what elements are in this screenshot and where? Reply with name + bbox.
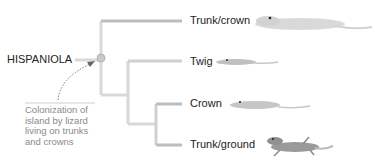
tip-label: Twig <box>190 55 213 67</box>
lizard-trunk-ground-icon <box>267 137 333 156</box>
tip-label: Trunk/crown <box>190 14 250 26</box>
lizard-crown-icon <box>230 101 310 109</box>
lizard-twig-icon <box>216 59 278 65</box>
arrow-head-icon <box>87 61 95 67</box>
colonization-arrow <box>58 64 90 100</box>
colonization-caption: Colonization of island by lizard living … <box>25 105 105 147</box>
lizard-trunk-crown-icon <box>255 16 372 30</box>
tip-label: Trunk/ground <box>190 138 255 150</box>
ancestor-node <box>97 54 105 62</box>
root-label: HISPANIOLA <box>7 53 72 65</box>
tip-label: Crown <box>190 97 222 109</box>
